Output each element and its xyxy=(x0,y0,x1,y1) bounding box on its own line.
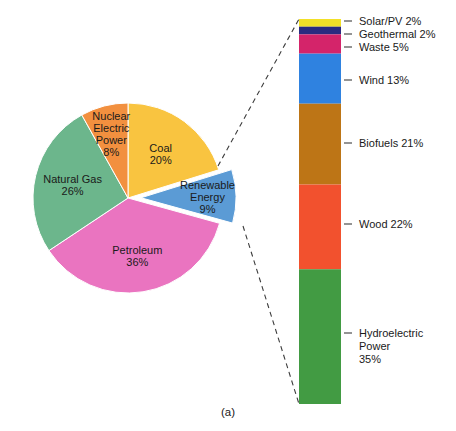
bar-label-geothermal: Geothermal 2% xyxy=(359,28,436,40)
pie-label-coal: Coal20% xyxy=(149,142,172,166)
bar-segment-biofuels[interactable] xyxy=(299,104,341,185)
bar-segment-wood[interactable] xyxy=(299,185,341,270)
figure-canvas: Coal20%RenewableEnergy9%Petroleum36%Natu… xyxy=(0,0,456,431)
bar-label-solar-pv: Solar/PV 2% xyxy=(359,15,422,27)
bar-segment-solar-pv[interactable] xyxy=(299,19,341,27)
bar-segment-geothermal[interactable] xyxy=(299,27,341,35)
energy-figure: Coal20%RenewableEnergy9%Petroleum36%Natu… xyxy=(0,0,456,431)
bar-segment-wind[interactable] xyxy=(299,54,341,104)
bar-label-waste: Waste 5% xyxy=(359,41,409,53)
bar-label-biofuels: Biofuels 21% xyxy=(359,137,423,149)
bar-label-wood: Wood 22% xyxy=(359,218,413,230)
bar-segment-waste[interactable] xyxy=(299,34,341,53)
figure-caption: (a) xyxy=(221,406,235,418)
bar-label-wind: Wind 13% xyxy=(359,74,409,86)
bar-segment-hydroelectric-power[interactable] xyxy=(299,269,341,404)
